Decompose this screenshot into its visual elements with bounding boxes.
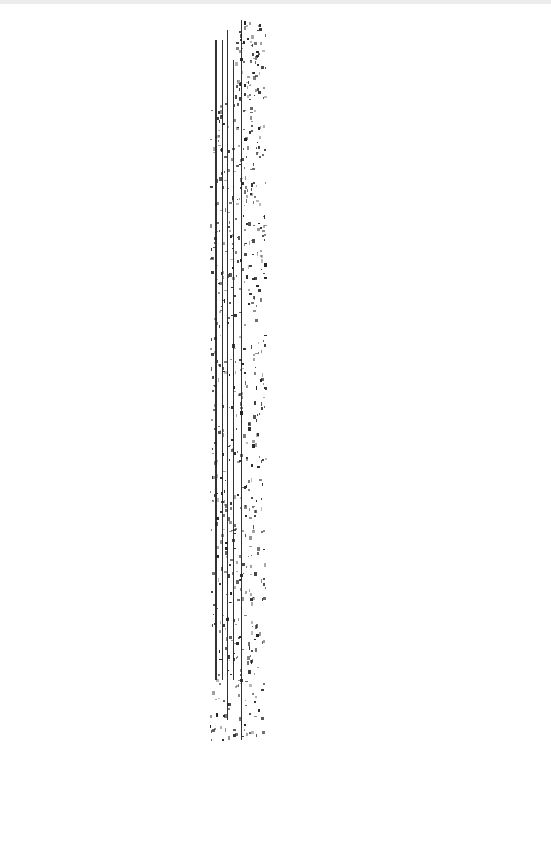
scan-speck: [260, 298, 262, 302]
scan-speck: [239, 50, 241, 53]
scan-speck: [258, 91, 261, 93]
scan-speck: [241, 363, 243, 365]
scan-speck: [234, 391, 236, 392]
scan-speck: [214, 494, 215, 497]
scan-speck: [222, 405, 224, 408]
scan-speck: [255, 353, 258, 354]
scan-speck: [245, 681, 248, 682]
scan-speck: [222, 615, 224, 616]
scan-speck: [241, 182, 244, 185]
scan-speck: [232, 234, 234, 237]
scan-speck: [251, 121, 253, 122]
scan-speck: [243, 573, 244, 575]
scan-speck: [223, 123, 225, 125]
scan-speck: [244, 205, 245, 206]
scan-speck: [228, 574, 230, 577]
scan-speck: [259, 156, 261, 158]
scan-speck: [238, 618, 239, 622]
scan-speck: [261, 531, 263, 532]
scan-speck: [250, 112, 253, 113]
scan-speck: [218, 698, 220, 700]
scan-speck: [249, 536, 251, 539]
scan-speck: [244, 729, 245, 731]
scan-speck: [211, 367, 212, 370]
scan-speck: [239, 555, 241, 558]
scan-speck: [223, 471, 226, 472]
scan-speck: [214, 461, 217, 465]
scan-speck: [236, 85, 238, 88]
scan-speck: [224, 714, 227, 718]
scan-speck: [239, 312, 242, 314]
scan-speck: [212, 376, 214, 379]
scan-speck: [265, 458, 267, 460]
scan-speck: [216, 265, 218, 267]
scan-speck: [264, 234, 266, 235]
scan-speck: [225, 547, 228, 550]
scan-speck: [230, 259, 233, 260]
scan-speck: [224, 504, 226, 506]
scan-speck: [254, 372, 256, 374]
scan-speck: [223, 271, 225, 274]
scan-speck: [233, 729, 236, 731]
scan-speck: [211, 271, 214, 273]
scan-speck: [236, 275, 237, 277]
scan-speck: [220, 726, 222, 729]
scan-speck: [234, 586, 236, 589]
scan-speck: [244, 724, 245, 726]
scan-speck: [220, 149, 223, 151]
scan-speck: [265, 34, 266, 37]
scan-speck: [216, 498, 219, 502]
scan-speck: [263, 225, 265, 228]
scan-speck: [225, 542, 228, 544]
scan-speck: [240, 259, 242, 262]
scan-speck: [213, 247, 215, 249]
scan-speck: [229, 459, 230, 460]
scan-speck: [251, 240, 252, 241]
scan-speck: [248, 289, 250, 291]
scan-speck: [220, 110, 223, 114]
scan-speck: [249, 94, 252, 95]
scan-speck: [239, 97, 241, 100]
scan-speck: [222, 739, 224, 741]
scan-speck: [221, 567, 223, 570]
scan-speck: [234, 119, 236, 123]
scan-speck: [244, 229, 246, 231]
scan-speck: [233, 386, 235, 389]
scan-speck: [213, 152, 216, 153]
scan-speck: [249, 732, 251, 734]
scan-speck: [256, 419, 257, 421]
scan-speck: [240, 82, 241, 85]
scan-speck: [248, 480, 250, 483]
scan-speck: [234, 548, 237, 549]
scan-speck: [225, 480, 227, 481]
scan-speck: [225, 647, 227, 650]
scan-speck: [218, 145, 221, 147]
scan-speck: [222, 582, 223, 583]
scan-speck: [223, 276, 225, 279]
scan-speck: [259, 203, 261, 205]
scan-speck: [244, 190, 246, 193]
scan-speck: [263, 640, 264, 643]
scan-speck: [245, 534, 246, 537]
scan-speck: [237, 599, 239, 601]
scan-speck: [242, 368, 243, 369]
scan-speck: [228, 212, 229, 214]
scan-speck: [234, 314, 237, 317]
scan-speck: [253, 182, 255, 184]
scan-speck: [257, 667, 260, 668]
scan-speck: [253, 58, 256, 59]
scan-speck: [233, 400, 234, 404]
scan-speck: [237, 461, 240, 464]
scan-speck: [248, 556, 250, 557]
scan-speck: [228, 655, 229, 659]
scan-speck: [258, 146, 260, 149]
scan-speck: [250, 169, 252, 170]
scan-speck: [245, 705, 248, 706]
scan-speck: [236, 571, 238, 572]
scan-speck: [260, 126, 261, 129]
scan-speck: [219, 325, 220, 327]
scan-speck: [227, 188, 228, 189]
scan-speck: [229, 221, 230, 224]
scan-speck: [214, 623, 217, 625]
scan-speck: [240, 679, 243, 682]
